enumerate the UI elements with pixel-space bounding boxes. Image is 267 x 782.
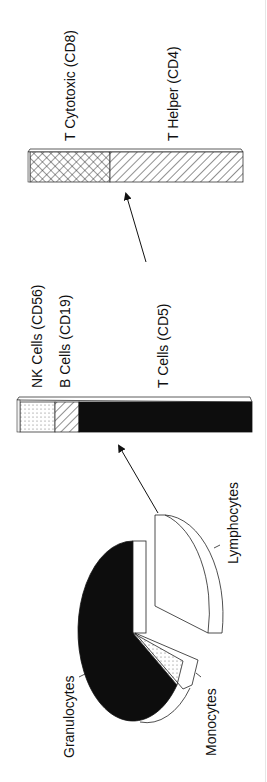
label-b: B Cells (CD19) <box>57 295 73 388</box>
diagram-canvas: T Cytotoxic (CD8) T Helper (CD4) NK Cell… <box>0 0 267 782</box>
pie-chart <box>78 515 223 723</box>
lymphocyte-bar <box>17 397 252 432</box>
label-cd4: T Helper (CD4) <box>165 46 181 141</box>
segment-t <box>79 402 252 432</box>
label-cd8: T Cytotoxic (CD8) <box>62 30 78 141</box>
label-t: T Cells (CD5) <box>155 303 171 388</box>
label-lymphocytes: Lymphocytes <box>225 482 241 564</box>
segment-nk <box>20 402 55 432</box>
t-cell-bar <box>28 149 243 182</box>
segment-b <box>55 402 79 432</box>
figure: T Cytotoxic (CD8) T Helper (CD4) NK Cell… <box>0 0 267 782</box>
arrow-lymph-to-subsets <box>119 446 158 513</box>
label-monocytes: Monocytes <box>203 688 219 756</box>
segment-cd8 <box>30 152 110 182</box>
arrow-t-to-subsets <box>126 194 146 262</box>
slice-lymphocytes <box>155 515 209 633</box>
label-nk: NK Cells (CD56) <box>29 285 45 388</box>
label-granulocytes: Granulocytes <box>61 676 77 758</box>
segment-cd4 <box>110 152 243 182</box>
